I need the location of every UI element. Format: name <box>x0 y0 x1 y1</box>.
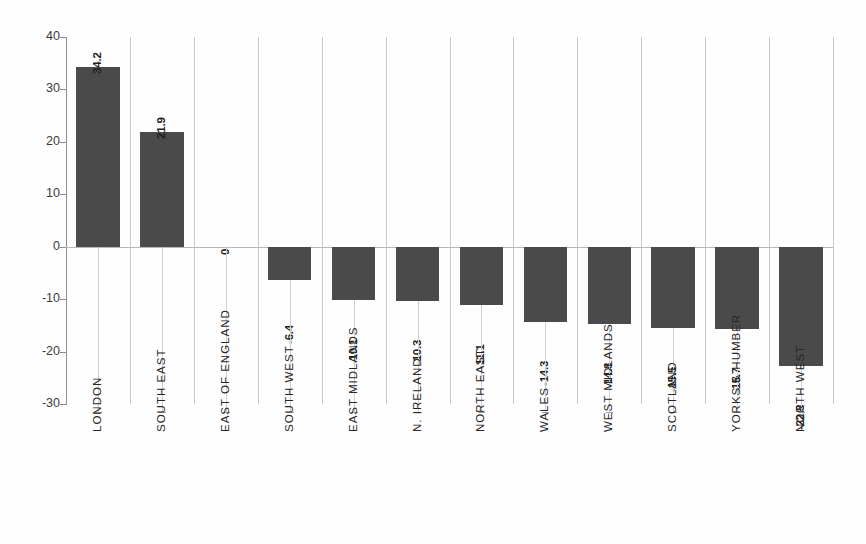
y-axis-tick-label: -20 <box>26 345 60 358</box>
gridline-vertical <box>577 37 578 404</box>
y-axis-tick <box>60 89 67 90</box>
category-label: SOUTH EAST <box>155 349 167 432</box>
y-axis-label-wrap: -20 <box>14 352 60 353</box>
y-axis-tick-label: 0 <box>26 240 60 253</box>
y-axis-tick-label: 20 <box>26 135 60 148</box>
y-axis-tick <box>60 352 67 353</box>
bar-chart: 403020100-10-20-30 34.221.90-6.4-10.1-10… <box>0 0 866 544</box>
gridline-vertical <box>513 37 514 404</box>
y-axis-line <box>66 37 67 404</box>
y-axis-label-wrap: 20 <box>14 142 60 143</box>
category-label: NORTH EAST <box>474 348 486 432</box>
bar-value-label: 34.2 <box>91 53 103 75</box>
bar <box>524 247 567 322</box>
y-axis-tick-label: 30 <box>26 82 60 95</box>
category-label: EAST MIDLANDS <box>347 327 359 432</box>
bar <box>76 67 119 246</box>
y-axis-tick-label: -10 <box>26 292 60 305</box>
y-axis-tick <box>60 37 67 38</box>
y-axis-tick <box>60 404 67 405</box>
category-label: LONDON <box>91 377 103 432</box>
bar <box>140 132 183 247</box>
category-label: NORTH WEST <box>794 345 806 432</box>
y-axis-label-wrap: -30 <box>14 404 60 405</box>
y-axis-tick-label: 10 <box>26 187 60 200</box>
bar-value-label: 21.9 <box>155 117 167 139</box>
y-axis-label-wrap: 30 <box>14 89 60 90</box>
category-label: N. IRELAND <box>411 357 423 432</box>
y-axis-label-wrap: -10 <box>14 299 60 300</box>
y-axis-tick-label: -30 <box>26 397 60 410</box>
y-axis-label-wrap: 0 <box>14 247 60 248</box>
gridline-vertical <box>194 37 195 404</box>
y-axis-label-wrap: 10 <box>14 194 60 195</box>
y-axis-tick <box>60 142 67 143</box>
category-label: SCOTLAND <box>666 361 678 432</box>
gridline-vertical <box>258 37 259 404</box>
category-label: EAST OF ENGLAND <box>219 309 231 432</box>
bar <box>396 247 439 301</box>
bar <box>588 247 631 325</box>
gridline-vertical <box>450 37 451 404</box>
gridline-vertical <box>769 37 770 404</box>
y-axis-tick <box>60 299 67 300</box>
bar <box>268 247 311 281</box>
gridline-vertical <box>322 37 323 404</box>
category-label: YORKS & HUMBER <box>730 314 742 432</box>
bar <box>651 247 694 328</box>
gridline-vertical <box>641 37 642 404</box>
y-axis-label-wrap: 40 <box>14 37 60 38</box>
y-axis-tick-label: 40 <box>26 30 60 43</box>
gridline-vertical <box>705 37 706 404</box>
bar-value-label: -6.4 <box>283 325 295 344</box>
bar <box>460 247 503 305</box>
gridline-vertical <box>386 37 387 404</box>
category-label: WALES <box>538 387 550 432</box>
bar-value-label: 0 <box>219 249 231 255</box>
gridline-vertical <box>130 37 131 404</box>
bar <box>332 247 375 300</box>
gridline-vertical <box>833 37 834 404</box>
category-label: SOUTH WEST <box>283 345 295 432</box>
y-axis-tick <box>60 194 67 195</box>
category-label: WEST MIDLANDS <box>602 323 614 432</box>
